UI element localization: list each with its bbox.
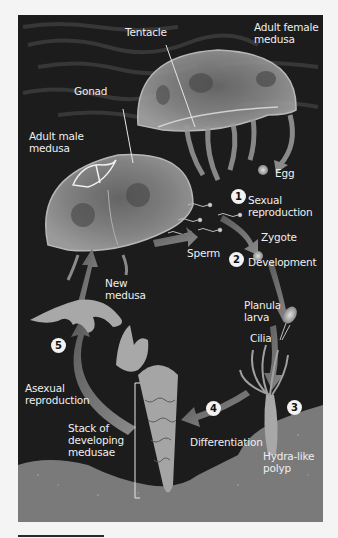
label-tentacle: Tentacle xyxy=(125,26,167,38)
label-new-line2: medusa xyxy=(105,289,146,301)
label-new-line1: New xyxy=(105,277,146,289)
label-adult-female-medusa: Adult female medusa xyxy=(254,21,319,45)
stack-bracket xyxy=(135,383,140,498)
label-stack-of-developing-medusae: Stack of developing medusae xyxy=(68,422,124,458)
label-planula-line2: larva xyxy=(244,311,281,323)
step-marker-5: 5 xyxy=(51,338,66,353)
label-stack-line1: Stack of xyxy=(68,422,124,434)
diagram-artwork xyxy=(18,15,323,522)
label-adult-female-line1: Adult female xyxy=(254,21,319,33)
label-differentiation: Differentiation xyxy=(190,436,263,448)
label-hydra-line1: Hydra-like xyxy=(263,450,314,462)
label-adult-male-line1: Adult male xyxy=(29,130,84,142)
label-planula-line1: Planula xyxy=(244,299,281,311)
life-cycle-diagram: Tentacle Adult female medusa Gonad Adult… xyxy=(18,15,323,522)
caption-rule xyxy=(18,535,104,537)
label-sexual-reproduction: Sexual reproduction xyxy=(248,194,313,218)
label-sperm: Sperm xyxy=(187,247,220,259)
strobila-illustration xyxy=(116,325,178,493)
label-gonad: Gonad xyxy=(74,85,107,97)
label-sexual-line2: reproduction xyxy=(248,206,313,218)
label-sexual-line1: Sexual xyxy=(248,194,313,206)
label-hydra-line2: polyp xyxy=(263,462,314,474)
label-adult-male-line2: medusa xyxy=(29,142,84,154)
label-zygote: Zygote xyxy=(261,231,297,243)
label-adult-male-medusa: Adult male medusa xyxy=(29,130,84,154)
label-stack-line3: medusae xyxy=(68,446,124,458)
label-asexual-line1: Asexual xyxy=(25,382,90,394)
label-asexual-reproduction: Asexual reproduction xyxy=(25,382,90,406)
label-egg: Egg xyxy=(275,167,294,179)
label-stack-line2: developing xyxy=(68,434,124,446)
label-cilia: Cilia xyxy=(250,332,272,344)
label-asexual-line2: reproduction xyxy=(25,394,90,406)
step-marker-2: 2 xyxy=(229,252,244,267)
step-marker-1: 1 xyxy=(231,189,246,204)
label-hydra-like-polyp: Hydra-like polyp xyxy=(263,450,314,474)
egg-illustration xyxy=(258,165,268,175)
label-planula-larva: Planula larva xyxy=(244,299,281,323)
male-medusa-illustration xyxy=(46,155,193,280)
step-marker-4: 4 xyxy=(206,401,221,416)
label-new-medusa: New medusa xyxy=(105,277,146,301)
label-development: Development xyxy=(248,256,317,268)
step-marker-3: 3 xyxy=(287,400,302,415)
label-adult-female-line2: medusa xyxy=(254,33,319,45)
